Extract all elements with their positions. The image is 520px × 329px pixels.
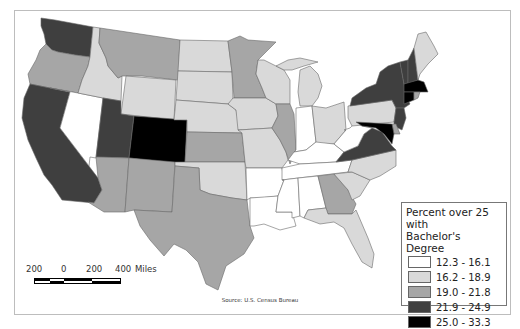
legend-label: 21.9 - 24.9	[436, 302, 491, 313]
scale-bar-graphic	[34, 278, 121, 284]
legend-label: 16.2 - 18.9	[436, 272, 491, 283]
legend-swatch	[408, 301, 431, 313]
legend-swatch	[408, 256, 431, 268]
legend-row: 16.2 - 18.9	[406, 270, 502, 284]
legend-swatch	[408, 316, 431, 328]
legend-title-line1: Percent over 25 with	[406, 206, 502, 230]
legend-row: 25.0 - 33.3	[406, 315, 502, 329]
state-colorado	[129, 116, 187, 164]
legend-row: 19.0 - 21.8	[406, 285, 502, 299]
legend-row: 21.9 - 24.9	[406, 300, 502, 314]
state-florida	[304, 208, 374, 268]
scale-label: 0	[61, 264, 66, 274]
scale-unit: Miles	[135, 264, 157, 274]
state-maine	[414, 32, 438, 80]
legend-label: 19.0 - 21.8	[436, 287, 491, 298]
state-connecticut	[404, 92, 414, 104]
legend-label: 12.3 - 16.1	[436, 257, 491, 268]
scale-label: 400	[115, 264, 131, 274]
state-south-dakota	[176, 71, 233, 104]
state-michigan	[298, 66, 322, 106]
state-rhode-island	[414, 92, 420, 100]
state-new-mexico	[125, 158, 175, 212]
legend-row: 12.3 - 16.1	[406, 255, 502, 269]
legend-swatch	[408, 286, 431, 298]
legend-swatch	[408, 271, 431, 283]
legend-label: 25.0 - 33.3	[436, 317, 491, 328]
state-north-dakota	[178, 40, 232, 72]
legend: Percent over 25 with Bachelor's Degree 1…	[401, 202, 507, 306]
state-kansas	[185, 132, 245, 162]
state-wyoming	[121, 76, 176, 120]
scale-labels: 200 0 200 400 Miles	[26, 264, 196, 275]
scale-label: 200	[26, 264, 42, 274]
legend-title-line2: Bachelor's Degree	[406, 230, 502, 254]
scale-label: 200	[86, 264, 102, 274]
scale-bar: 200 0 200 400 Miles	[26, 264, 196, 275]
